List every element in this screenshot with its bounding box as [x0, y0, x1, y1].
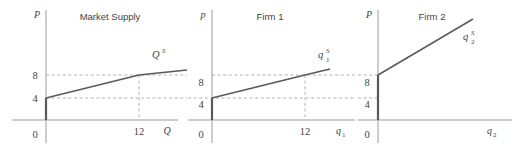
- panel-title-firm-1: Firm 1: [257, 11, 284, 22]
- y-axis-label-firm-2: P: [365, 9, 372, 20]
- supply-curve-firm-1: [212, 69, 330, 98]
- x-tick-12-firm-1: 12: [300, 126, 311, 137]
- origin-label-firm-1: 0: [198, 129, 203, 140]
- y-tick-8-market-supply: 8: [32, 70, 37, 81]
- supply-curve-figure: Market Supply P Q 8 4 0 12 Q S Firm 1 p: [0, 0, 517, 153]
- panel-title-firm-2: Firm 2: [419, 11, 446, 22]
- x-axis-label-market-supply: Q: [163, 125, 171, 136]
- x-axis-label-group-firm-1: q 1: [336, 125, 346, 139]
- curve-label-sub-firm-2: 2: [471, 38, 475, 46]
- x-axis-label-firm-2: q: [487, 125, 492, 136]
- x-axis-label-sub-firm-2: 2: [493, 131, 497, 139]
- curve-label-base-firm-2: q: [463, 31, 468, 42]
- y-tick-4-firm-2: 4: [364, 99, 370, 110]
- curve-label-base-market: Q: [152, 49, 160, 60]
- panel-firm-1: Firm 1 p q 1 8 4 0 12 q S 1: [188, 9, 356, 143]
- x-tick-12-market-supply: 12: [134, 126, 145, 137]
- y-tick-4-firm-1: 4: [198, 99, 204, 110]
- curve-label-sub-firm-1: 1: [326, 56, 330, 64]
- y-tick-8-firm-2: 8: [364, 77, 369, 88]
- panel-market-supply: Market Supply P Q 8 4 0 12 Q S: [12, 9, 187, 143]
- supply-curve-firm-2: [378, 19, 473, 75]
- y-axis-label-firm-1: p: [200, 9, 206, 20]
- x-axis-label-sub-firm-1: 1: [342, 131, 346, 139]
- curve-label-firm-1: q S 1: [318, 47, 330, 64]
- x-axis-label-firm-1: q: [336, 125, 341, 136]
- x-axis-label-group-firm-2: q 2: [487, 125, 497, 139]
- y-tick-8-firm-1: 8: [198, 77, 203, 88]
- curve-label-sup-firm-1: S: [326, 47, 330, 55]
- curve-label-sup-market: S: [162, 47, 166, 55]
- y-axis-label-market-supply: P: [33, 9, 40, 20]
- curve-label-sup-firm-2: S: [471, 29, 475, 37]
- y-tick-4-market-supply: 4: [32, 93, 38, 104]
- origin-label-market-supply: 0: [32, 129, 37, 140]
- origin-label-firm-2: 0: [364, 129, 369, 140]
- curve-label-market-supply: Q S: [152, 47, 166, 60]
- panel-firm-2: Firm 2 P q 2 8 4 0 q S 2: [358, 9, 512, 143]
- supply-curve-market: [46, 70, 187, 98]
- curve-label-firm-2: q S 2: [463, 29, 475, 46]
- panel-title-market-supply: Market Supply: [80, 11, 141, 22]
- curve-label-base-firm-1: q: [318, 49, 323, 60]
